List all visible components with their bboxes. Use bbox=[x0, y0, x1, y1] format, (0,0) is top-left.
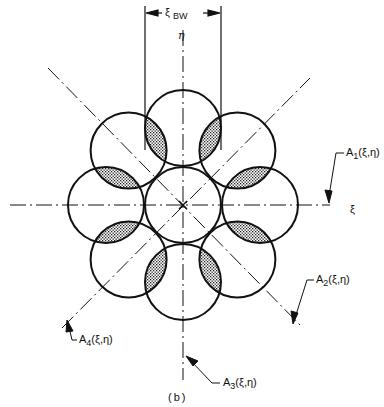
axis-lines bbox=[10, 30, 330, 380]
callout-a1: A1(ξ,η) bbox=[346, 147, 380, 158]
width-label: ξ BW bbox=[165, 7, 188, 18]
leader-a1 bbox=[329, 153, 344, 196]
xi-axis-label: ξ bbox=[350, 204, 355, 215]
circle-array-diagram bbox=[0, 0, 384, 407]
figure-caption: (b) bbox=[168, 392, 187, 403]
callout-a4: A4(ξ,η) bbox=[79, 334, 113, 345]
callout-a2: A2(ξ,η) bbox=[316, 274, 350, 285]
eta-axis-label: η bbox=[178, 30, 185, 41]
diagonal-a2 bbox=[48, 68, 300, 325]
callout-a3: A3(ξ,η) bbox=[223, 377, 257, 388]
leader-a2 bbox=[295, 280, 314, 318]
